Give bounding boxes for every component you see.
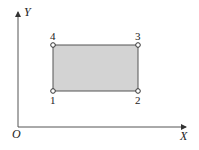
origin-label: O [12,127,21,141]
node-label-1: 1 [50,94,56,106]
node-label-3: 3 [135,30,141,42]
x-axis-label: X [179,129,188,143]
coordinate-diagram: 4 3 1 2 O X Y [0,0,199,150]
node-1 [51,89,56,94]
node-2 [136,89,141,94]
node-4 [51,43,56,48]
y-axis-label: Y [24,5,32,19]
node-label-4: 4 [50,30,56,42]
node-label-2: 2 [135,94,141,106]
node-3 [136,43,141,48]
element-rectangle [53,45,138,91]
